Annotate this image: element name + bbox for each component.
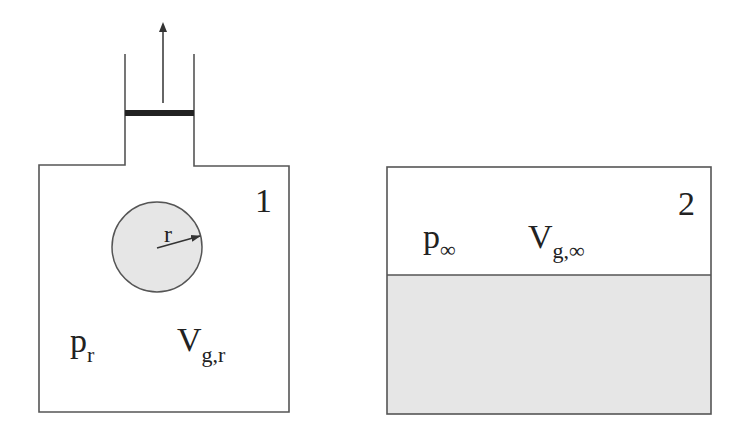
bubble: r [112,202,202,292]
volume-g-inf-label: Vg,∞ [528,218,585,263]
radius-label: r [164,221,172,247]
pressure-inf-label: p∞ [423,218,456,262]
container-2: 2 p∞ Vg,∞ [387,167,711,414]
liquid-region [387,275,711,414]
pressure-r-label: pr [70,322,95,367]
container-1-number: 1 [255,182,272,219]
bubble-circle [112,202,202,292]
bubble-vs-flat-surface-diagram: 1 r pr Vg,r 2 p∞ Vg,∞ [0,0,739,439]
container-1: 1 r pr Vg,r [39,27,289,412]
container-2-number: 2 [678,185,695,222]
piston-bar [125,110,194,116]
volume-g-r-label: Vg,r [177,321,226,367]
